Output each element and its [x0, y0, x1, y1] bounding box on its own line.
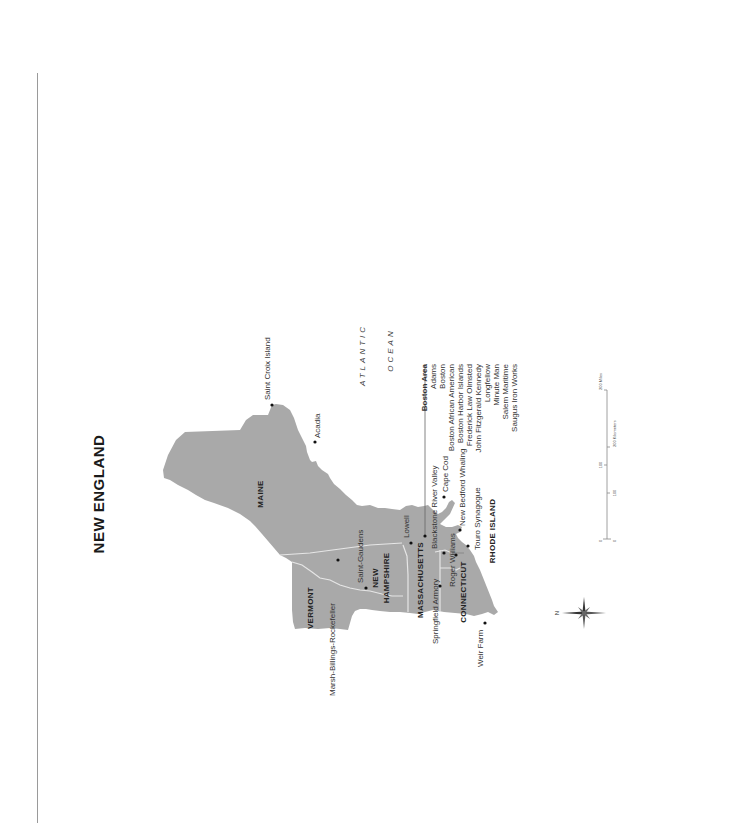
boston-area-item[interactable]: Boston African American	[447, 364, 456, 451]
state-label-rhode-island: RHODE ISLAND	[488, 499, 497, 564]
ocean-label-atlantic: ATLANTIC	[358, 324, 367, 387]
new-england-map: MAINE NEW HAMPSHIRE VERMONT MASSACHUSETT…	[0, 0, 751, 823]
site-label-blackstone[interactable]: Blackstone River Valley	[430, 466, 439, 549]
scale-km-200: 200 Kilometers	[612, 420, 617, 447]
boston-area-item[interactable]: Boston Harbor Islands	[456, 364, 465, 443]
scale-km-100: 100	[612, 489, 617, 496]
site-dot-lowell[interactable]	[409, 541, 412, 544]
compass-north-label: N	[554, 611, 560, 615]
site-label-acadia[interactable]: Acadia	[313, 413, 322, 438]
scale-miles-200: 200 Miles	[598, 373, 603, 390]
site-label-touro[interactable]: Touro Synagogue	[473, 487, 482, 550]
ocean-label-ocean: OCEAN	[386, 328, 395, 371]
boston-area-item[interactable]: John Fitzgerald Kennedy	[474, 364, 483, 453]
site-label-roger-williams[interactable]: Roger Williams	[448, 533, 457, 587]
boston-area-item[interactable]: Longfellow	[483, 364, 492, 402]
site-label-saint-gaudens[interactable]: Saint-Gaudens	[356, 530, 365, 583]
site-label-cape-cod[interactable]: Cape Cod	[441, 456, 450, 492]
state-label-connecticut: CONNECTICUT	[459, 561, 468, 623]
state-label-massachusetts: MASSACHUSETTS	[416, 542, 425, 618]
boston-area-item[interactable]: Salem Maritime	[501, 363, 510, 419]
scale-bar: 200 Miles 100 0 200 Kilometers 100 0	[598, 373, 617, 542]
scale-km-0: 0	[612, 539, 617, 542]
boston-area-list: Boston Area Adams Boston Boston African …	[420, 363, 519, 452]
site-dot-weir-farm[interactable]	[483, 621, 486, 624]
scale-miles-100: 100	[598, 461, 603, 468]
site-dot-boston[interactable]	[423, 534, 426, 537]
site-dot-marsh-billings[interactable]	[336, 558, 339, 561]
site-label-weir-farm[interactable]: Weir Farm	[476, 629, 485, 667]
site-label-marsh-billings[interactable]: Marsh-Billings-Rockefeller	[328, 603, 337, 696]
site-label-lowell[interactable]: Lowell	[402, 515, 411, 538]
site-dot-blackstone[interactable]	[442, 551, 445, 554]
site-dot-touro[interactable]	[466, 544, 469, 547]
site-dot-saint-gaudens[interactable]	[364, 586, 367, 589]
site-dot-saint-croix[interactable]	[270, 403, 273, 406]
state-label-new-hampshire-line2: HAMPSHIRE	[382, 552, 391, 603]
compass-rose-icon: N	[554, 597, 606, 629]
site-label-springfield[interactable]: Springfield Armory	[431, 579, 440, 644]
state-label-new-hampshire-line1: NEW	[371, 568, 380, 588]
boston-area-item[interactable]: Boston	[438, 364, 447, 389]
boston-area-heading: Boston Area	[420, 363, 429, 411]
boston-area-item[interactable]: Minute Man	[492, 364, 501, 406]
site-label-saint-croix[interactable]: Saint Croix Island	[263, 337, 272, 400]
state-label-vermont: VERMONT	[306, 587, 315, 629]
site-dot-cape-cod[interactable]	[442, 495, 445, 498]
site-label-new-bedford[interactable]: New Bedford Whaling	[458, 449, 467, 526]
state-label-maine: MAINE	[256, 480, 265, 508]
boston-area-item[interactable]: Saugus Iron Works	[510, 364, 519, 432]
site-dot-new-bedford[interactable]	[458, 528, 461, 531]
site-dot-acadia[interactable]	[313, 440, 316, 443]
scale-miles-0: 0	[598, 539, 603, 542]
boston-area-item[interactable]: Adams	[429, 364, 438, 389]
boston-area-item[interactable]: Frederick Law Olmsted	[465, 364, 474, 446]
